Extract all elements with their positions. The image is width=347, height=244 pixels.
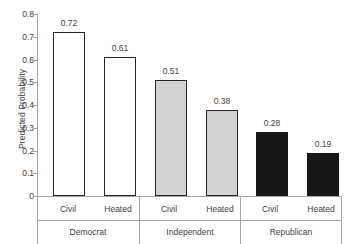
y-tick-mark [33,128,37,129]
bar-value-label: 0.19 [301,139,345,149]
bar-independent-heated [206,110,238,197]
y-tick-label: 0.6 [14,55,34,65]
bar-democrat-civil [53,32,85,196]
y-tick-mark [33,37,37,38]
category-label-civil: Civil [144,204,194,214]
category-axis: Civil Heated Civil Heated Civil Heated D… [37,197,342,244]
bar-value-label: 0.38 [200,96,244,106]
category-label-heated: Heated [296,204,346,214]
y-tick-mark [33,60,37,61]
y-tick-label: 0.2 [14,146,34,156]
bar-republican-heated [307,153,339,196]
y-tick-label: 0.7 [14,32,34,42]
group-separator [240,220,241,244]
bar-value-label: 0.28 [250,118,294,128]
category-separator [37,197,38,220]
group-separator [341,220,342,244]
group-separator [139,220,140,244]
group-label-republican: Republican [251,227,331,237]
category-label-heated: Heated [93,204,143,214]
bar-value-label: 0.51 [149,66,193,76]
y-tick-mark [33,14,37,15]
y-tick-label: 0.1 [14,168,34,178]
y-tick-mark [33,151,37,152]
bar-republican-civil [256,132,288,196]
bar-value-label: 0.61 [98,43,142,53]
y-tick-mark [33,82,37,83]
plot-area: 0.72 0.61 0.51 0.38 0.28 0.19 [38,14,342,196]
category-label-heated: Heated [195,204,245,214]
y-tick-label: 0.5 [14,77,34,87]
category-axis-outer-row: Democrat Independent Republican [37,220,342,244]
bar-chart: Predicted Probability 0.8 0.7 0.6 0.5 0.… [0,0,347,244]
bar-independent-civil [155,80,187,196]
y-tick-mark [33,105,37,106]
bar-democrat-heated [104,57,136,196]
y-tick-mark [33,173,37,174]
group-label-independent: Independent [150,227,230,237]
y-tick-label: 0.8 [14,9,34,19]
y-tick-label: 0.4 [14,100,34,110]
y-tick-label: 0 [14,191,34,201]
category-axis-inner-row: Civil Heated Civil Heated Civil Heated [37,197,342,220]
y-axis-tick-labels: 0.8 0.7 0.6 0.5 0.4 0.3 0.2 0.1 0 [14,14,34,196]
category-label-civil: Civil [245,204,295,214]
group-label-democrat: Democrat [48,227,128,237]
category-label-civil: Civil [43,204,93,214]
y-tick-label: 0.3 [14,123,34,133]
group-separator [37,220,38,244]
bar-value-label: 0.72 [47,18,91,28]
